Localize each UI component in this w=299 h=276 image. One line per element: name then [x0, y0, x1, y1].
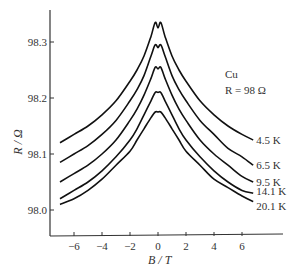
y-tick-label: 98.1 [28, 148, 47, 160]
y-tick-label: 98.2 [28, 92, 47, 104]
x-tick-label: −2 [124, 240, 136, 252]
series-label: 20.1 K [256, 200, 286, 212]
series-labels: 4.5 K6.5 K9.5 K14.1 K20.1 K [256, 134, 286, 212]
series-label: 4.5 K [256, 134, 281, 146]
curves [60, 22, 253, 204]
x-tick-label: −6 [68, 240, 80, 252]
y-axis-label: R / Ω [11, 129, 25, 156]
curve-6-5-K [60, 45, 253, 166]
x-tick-label: 4 [211, 240, 217, 252]
y-tick-label: 98.3 [28, 36, 48, 48]
series-label: 14.1 K [256, 185, 286, 197]
x-tick-label: −4 [96, 240, 108, 252]
curve-4-5-K [60, 22, 253, 143]
series-label: 6.5 K [256, 159, 281, 171]
x-tick-label: 6 [239, 240, 245, 252]
axes: −6−4−2024698.098.198.298.3 [28, 10, 283, 252]
resistance-annotation: R = 98 Ω [225, 84, 266, 96]
y-tick-label: 98.0 [28, 204, 48, 216]
x-axis-line [50, 234, 283, 236]
magnetoresistance-chart: −6−4−2024698.098.198.298.3 4.5 K6.5 K9.5… [0, 0, 299, 276]
x-tick-label: 0 [155, 240, 161, 252]
x-axis-label: B / T [148, 253, 173, 267]
x-tick-label: 2 [183, 240, 189, 252]
material-label: Cu [225, 68, 238, 80]
